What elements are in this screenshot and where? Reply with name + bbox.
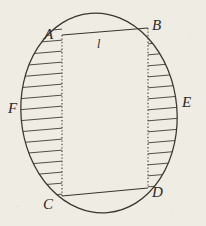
vertex-label-b: B <box>152 18 161 33</box>
hatch-line <box>147 105 200 110</box>
hatch-line <box>147 149 200 154</box>
paper-grain <box>10 18 197 211</box>
vertex-label-e: E <box>182 95 191 110</box>
hatch-line <box>8 139 63 144</box>
hatch-line <box>8 183 63 188</box>
figure-canvas <box>0 0 206 226</box>
geometry-figure: A B C D E F l <box>0 0 206 226</box>
hatch-line <box>147 127 200 132</box>
hatch-line <box>8 84 63 89</box>
hatch-line <box>147 160 200 165</box>
hatch-line <box>8 150 63 155</box>
hatch-line <box>8 62 63 67</box>
hatch-line <box>8 194 63 199</box>
hatch-line <box>8 29 63 34</box>
hatch-line <box>8 216 63 221</box>
hatch-line <box>8 205 63 210</box>
hatch-line <box>147 72 200 77</box>
vertex-label-c: C <box>43 197 53 212</box>
hatch-line <box>8 7 63 12</box>
hatch-line <box>147 204 200 209</box>
hatch-line <box>147 116 200 121</box>
hatch-line <box>147 138 200 143</box>
hatch-line <box>8 128 63 133</box>
vertex-label-f: F <box>8 101 17 116</box>
hatch-line <box>8 161 63 166</box>
hatch-line <box>8 117 63 122</box>
hatch-line <box>8 18 63 23</box>
segment-cd <box>62 188 148 196</box>
hatch-line <box>147 61 200 66</box>
hatch-line <box>147 94 200 99</box>
segment-ab <box>62 28 148 35</box>
hatch-line <box>147 50 200 55</box>
vertex-label-d: D <box>152 185 163 200</box>
hatch-line <box>8 73 63 78</box>
hatch-line <box>147 215 200 220</box>
hatch-line <box>147 6 200 11</box>
hatch-line <box>147 39 200 44</box>
hatch-line <box>8 40 63 45</box>
hatch-line <box>8 172 63 177</box>
length-label-l: l <box>97 38 100 50</box>
hatch-line <box>147 171 200 176</box>
vertex-label-a: A <box>44 27 53 42</box>
